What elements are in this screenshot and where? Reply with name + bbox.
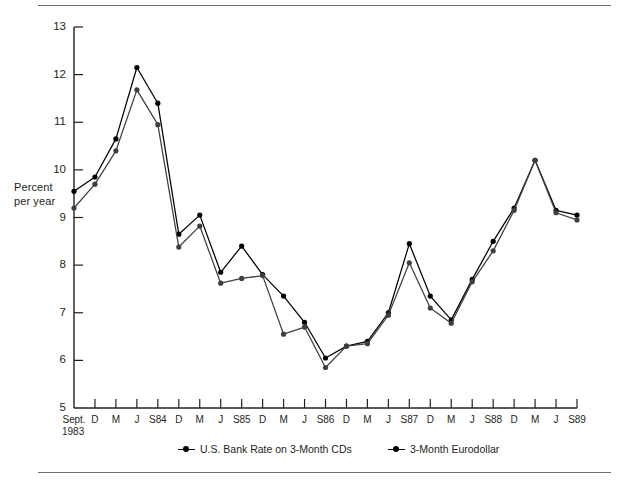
data-point-marker: [218, 281, 223, 286]
data-point-marker: [134, 65, 139, 70]
x-tick-label: Sept.: [63, 414, 86, 425]
data-point-marker: [71, 205, 76, 210]
data-point-marker: [365, 341, 370, 346]
data-point-marker: [302, 324, 307, 329]
y-tick-label: 9: [44, 212, 66, 223]
data-point-marker: [344, 343, 349, 348]
axes: [74, 27, 577, 408]
data-point-marker: [176, 244, 181, 249]
x-tick-label: M: [363, 414, 371, 425]
legend-item-cds: U.S. Bank Rate on 3-Month CDs: [178, 443, 352, 455]
x-tick-label: J: [218, 414, 223, 425]
data-point-marker: [71, 189, 76, 194]
data-point-marker: [574, 217, 579, 222]
data-point-marker: [155, 122, 160, 127]
axis-ticks: [74, 27, 577, 408]
data-point-marker: [239, 243, 244, 248]
x-tick-label: S85: [233, 414, 251, 425]
data-point-marker: [512, 208, 517, 213]
data-point-marker: [323, 355, 328, 360]
data-point-marker: [407, 241, 412, 246]
x-tick-label: J: [470, 414, 475, 425]
legend-item-eurodollar: 3-Month Eurodollar: [388, 443, 499, 455]
x-tick-label: J: [386, 414, 391, 425]
x-tick-label: D: [259, 414, 266, 425]
data-point-marker: [239, 276, 244, 281]
data-point-marker: [113, 136, 118, 141]
y-tick-label: 5: [44, 402, 66, 413]
x-tick-label: S87: [401, 414, 419, 425]
data-point-marker: [281, 293, 286, 298]
chart-legend: U.S. Bank Rate on 3-Month CDs 3-Month Eu…: [0, 443, 631, 461]
y-tick-label: 7: [44, 307, 66, 318]
y-tick-label: 10: [44, 164, 66, 175]
data-point-marker: [197, 223, 202, 228]
x-tick-label: S86: [317, 414, 335, 425]
y-tick-label: 13: [44, 21, 66, 32]
x-tick-label: D: [511, 414, 518, 425]
y-tick-label: 11: [44, 116, 66, 127]
x-tick-label: S88: [484, 414, 502, 425]
data-point-marker: [281, 332, 286, 337]
data-point-marker: [470, 279, 475, 284]
legend-line-marker-icon: [178, 445, 195, 454]
data-point-marker: [197, 213, 202, 218]
data-point-marker: [407, 260, 412, 265]
chart-page: Percent per year 1312111098765 Sept.DMJS…: [0, 0, 631, 483]
x-tick-label: J: [554, 414, 559, 425]
x-tick-label: D: [175, 414, 182, 425]
x-tick-label: D: [91, 414, 98, 425]
data-point-marker: [134, 87, 139, 92]
data-point-marker: [428, 293, 433, 298]
y-tick-label: 6: [44, 354, 66, 365]
y-tick-label: 8: [44, 259, 66, 270]
data-point-marker: [92, 174, 97, 179]
data-point-marker: [491, 248, 496, 253]
data-point-marker: [386, 313, 391, 318]
data-point-marker: [449, 321, 454, 326]
x-tick-label: M: [531, 414, 539, 425]
data-point-marker: [491, 239, 496, 244]
data-point-marker: [260, 273, 265, 278]
data-point-marker: [92, 182, 97, 187]
x-tick-label: M: [279, 414, 287, 425]
x-tick-label: M: [112, 414, 120, 425]
data-point-marker: [553, 210, 558, 215]
data-point-marker: [155, 101, 160, 106]
data-point-marker: [218, 270, 223, 275]
data-point-marker: [113, 148, 118, 153]
x-tick-label: D: [343, 414, 350, 425]
data-point-marker: [428, 305, 433, 310]
x-tick-label: S89: [568, 414, 586, 425]
line-chart-plot: [0, 0, 631, 483]
legend-label-cds: U.S. Bank Rate on 3-Month CDs: [200, 443, 352, 455]
x-axis-origin-year: 1983: [62, 426, 84, 437]
y-tick-label: 12: [44, 69, 66, 80]
legend-label-eurodollar: 3-Month Eurodollar: [410, 443, 499, 455]
data-point-marker: [574, 213, 579, 218]
x-tick-label: M: [196, 414, 204, 425]
data-point-marker: [323, 365, 328, 370]
data-point-marker: [302, 320, 307, 325]
legend-line-marker-icon: [388, 445, 405, 454]
x-tick-label: S84: [149, 414, 167, 425]
data-series: [71, 65, 579, 370]
x-tick-label: D: [427, 414, 434, 425]
x-tick-label: J: [134, 414, 139, 425]
data-point-marker: [532, 158, 537, 163]
x-tick-label: M: [447, 414, 455, 425]
x-tick-label: J: [302, 414, 307, 425]
